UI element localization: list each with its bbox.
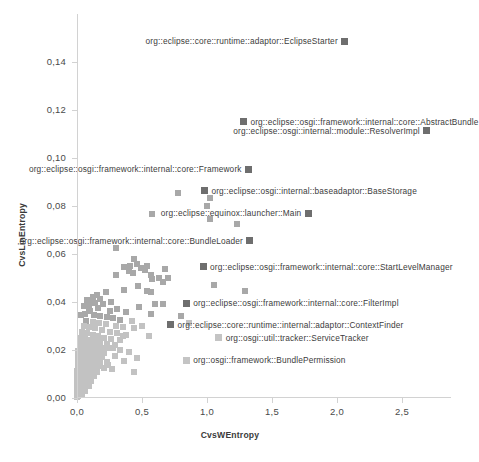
data-point (110, 315, 116, 321)
annotation-marker (246, 237, 253, 244)
data-point (130, 270, 136, 276)
y-axis-title: CvsLinEntropy (17, 185, 27, 285)
x-axis-line (77, 397, 451, 398)
data-point (117, 347, 123, 353)
x-tick-mark (402, 398, 403, 403)
point-label: org::eclipse::osgi::framework::internal:… (210, 262, 452, 272)
data-point (108, 299, 114, 305)
x-tick-label: 0,5 (127, 406, 157, 417)
y-axis-line (77, 14, 78, 398)
data-point (109, 366, 115, 372)
annotation-marker (167, 321, 174, 328)
annotation-marker (341, 38, 348, 45)
point-label: org::osgi::util::tracker::ServiceTracker (226, 333, 369, 343)
x-tick-label: 2,0 (322, 406, 352, 417)
point-label: org::osgi::framework::BundlePermission (193, 355, 345, 365)
y-tick-label: 0,14 (30, 56, 66, 67)
x-tick-label: 1,5 (257, 406, 287, 417)
data-point (129, 318, 135, 324)
point-label: org::eclipse::osgi::framework::internal:… (29, 164, 242, 174)
data-point (104, 314, 110, 320)
annotation-marker (215, 334, 222, 341)
data-point (165, 275, 171, 281)
point-label: org::eclipse::equinox::launcher::Main (161, 208, 302, 218)
y-tick-mark (72, 350, 77, 351)
x-tick-mark (337, 398, 338, 403)
annotation-marker (305, 210, 312, 217)
annotation-marker (245, 166, 252, 173)
data-point (152, 301, 158, 307)
x-tick-mark (142, 398, 143, 403)
data-point (149, 211, 155, 217)
x-axis-title: CvsWEntropy (0, 430, 460, 440)
data-point (148, 311, 154, 317)
y-tick-mark (72, 206, 77, 207)
data-point (126, 349, 132, 355)
x-tick-label: 1,0 (192, 406, 222, 417)
data-point (107, 329, 113, 335)
point-label: org::eclipse::core::runtime::internal::a… (178, 320, 404, 330)
data-point (95, 305, 101, 311)
data-point (78, 312, 84, 318)
annotation-marker (240, 118, 247, 125)
data-point (131, 325, 137, 331)
y-tick-label: 0,10 (30, 152, 66, 163)
x-tick-mark (272, 398, 273, 403)
data-point (146, 333, 152, 339)
data-point (142, 267, 148, 273)
data-point (234, 221, 240, 227)
annotation-marker (183, 300, 190, 307)
x-tick-label: 0,0 (62, 406, 92, 417)
data-point (92, 325, 98, 331)
data-point (114, 306, 120, 312)
data-point (100, 301, 106, 307)
data-point (123, 309, 129, 315)
y-tick-mark (72, 110, 77, 111)
data-point (131, 369, 137, 375)
data-point (110, 345, 116, 351)
data-point (121, 287, 127, 293)
data-point (112, 353, 118, 359)
data-point (178, 313, 184, 319)
y-tick-label: 0,08 (30, 200, 66, 211)
x-tick-mark (77, 398, 78, 403)
y-tick-mark (72, 158, 77, 159)
data-point (148, 289, 154, 295)
y-tick-mark (72, 302, 77, 303)
y-tick-mark (72, 254, 77, 255)
annotation-marker (200, 263, 207, 270)
data-point (160, 301, 166, 307)
data-point (107, 308, 113, 314)
y-tick-label: 0,02 (30, 344, 66, 355)
data-point (149, 276, 155, 282)
data-point (113, 272, 119, 278)
point-label: org::eclipse::osgi::internal::baseadapto… (211, 186, 417, 196)
data-point (120, 324, 126, 330)
y-tick-label: 0,04 (30, 296, 66, 307)
data-point (103, 289, 109, 295)
data-point (134, 355, 140, 361)
point-label: org::eclipse::core::runtime::adaptor::Ec… (146, 36, 338, 46)
data-point (120, 333, 126, 339)
y-tick-label: 0,12 (30, 104, 66, 115)
data-point (139, 323, 145, 329)
annotation-marker (201, 187, 208, 194)
data-point (121, 358, 127, 364)
data-point (175, 190, 181, 196)
y-tick-mark (72, 62, 77, 63)
data-point (113, 323, 119, 329)
data-point (135, 283, 141, 289)
x-tick-mark (207, 398, 208, 403)
annotation-marker (423, 127, 430, 134)
data-point (242, 288, 248, 294)
data-point (211, 282, 217, 288)
data-point (86, 305, 92, 311)
point-label: org::eclipse::osgi::internal::module::Re… (233, 126, 419, 136)
data-point (101, 365, 107, 371)
point-label: org::eclipse::osgi::framework::internal:… (20, 236, 243, 246)
point-label: org::eclipse::osgi::framework::internal:… (193, 298, 398, 308)
data-point (136, 304, 142, 310)
x-tick-label: 2,5 (387, 406, 417, 417)
